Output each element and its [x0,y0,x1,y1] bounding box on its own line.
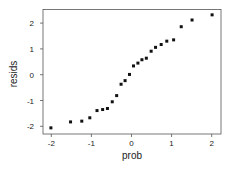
y-axis: -2-1012 [27,19,43,131]
y-tick-label: 1 [30,45,35,54]
scatter-chart: -2-1012 -2-1012 prob resids [0,0,231,170]
x-axis: -2-1012 [48,134,215,148]
data-point [165,40,168,43]
x-tick-label: 1 [169,139,174,148]
data-point [145,57,148,60]
data-point [140,58,143,61]
data-point [191,19,194,22]
data-point [128,73,131,76]
data-point [120,83,123,86]
x-tick-label: 0 [129,139,134,148]
data-point [124,79,127,82]
data-point [172,38,175,41]
x-axis-title: prob [122,150,142,161]
data-point [80,120,83,123]
data-point [150,50,153,53]
data-point [49,126,52,129]
data-point [132,64,135,67]
data-point [111,100,114,103]
data-point [106,107,109,110]
x-tick-label: -1 [88,139,96,148]
y-tick-label: -1 [27,97,35,106]
x-tick-label: -2 [48,139,56,148]
plot-frame [43,10,221,135]
data-point [136,62,139,65]
data-point [154,46,157,49]
y-tick-label: 0 [30,71,35,80]
data-points [49,13,213,129]
data-point [115,94,118,97]
data-point [160,43,163,46]
data-point [101,108,104,111]
y-axis-title: resids [8,61,19,88]
data-point [69,120,72,123]
data-point [96,109,99,112]
data-point [180,25,183,28]
data-point [211,13,214,16]
y-tick-label: 2 [30,19,35,28]
data-point [88,116,91,119]
y-tick-label: -2 [27,122,35,131]
x-tick-label: 2 [209,139,214,148]
